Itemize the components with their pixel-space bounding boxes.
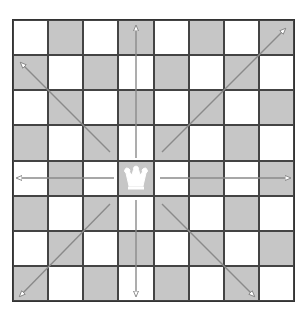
square-b6 bbox=[48, 90, 83, 125]
square-d6 bbox=[118, 90, 153, 125]
square-d8 bbox=[118, 20, 153, 55]
square-f4 bbox=[189, 161, 224, 196]
square-a5 bbox=[13, 125, 48, 160]
white-queen-icon bbox=[122, 164, 150, 192]
square-h3 bbox=[259, 196, 294, 231]
square-h4 bbox=[259, 161, 294, 196]
square-f5 bbox=[189, 125, 224, 160]
square-c3 bbox=[83, 196, 118, 231]
square-f1 bbox=[189, 266, 224, 301]
square-h8 bbox=[259, 20, 294, 55]
square-a2 bbox=[13, 231, 48, 266]
square-f2 bbox=[189, 231, 224, 266]
square-h7 bbox=[259, 55, 294, 90]
square-b3 bbox=[48, 196, 83, 231]
square-f8 bbox=[189, 20, 224, 55]
square-h5 bbox=[259, 125, 294, 160]
square-e4 bbox=[154, 161, 189, 196]
square-h2 bbox=[259, 231, 294, 266]
square-h6 bbox=[259, 90, 294, 125]
square-c4 bbox=[83, 161, 118, 196]
square-c7 bbox=[83, 55, 118, 90]
square-g2 bbox=[224, 231, 259, 266]
square-g8 bbox=[224, 20, 259, 55]
square-f6 bbox=[189, 90, 224, 125]
square-a7 bbox=[13, 55, 48, 90]
square-c5 bbox=[83, 125, 118, 160]
square-a1 bbox=[13, 266, 48, 301]
square-d2 bbox=[118, 231, 153, 266]
square-e8 bbox=[154, 20, 189, 55]
square-g6 bbox=[224, 90, 259, 125]
square-h1 bbox=[259, 266, 294, 301]
square-e7 bbox=[154, 55, 189, 90]
square-a6 bbox=[13, 90, 48, 125]
square-e1 bbox=[154, 266, 189, 301]
square-g5 bbox=[224, 125, 259, 160]
square-d3 bbox=[118, 196, 153, 231]
square-b1 bbox=[48, 266, 83, 301]
square-b8 bbox=[48, 20, 83, 55]
square-c2 bbox=[83, 231, 118, 266]
square-g4 bbox=[224, 161, 259, 196]
square-e3 bbox=[154, 196, 189, 231]
square-b7 bbox=[48, 55, 83, 90]
square-c6 bbox=[83, 90, 118, 125]
square-f3 bbox=[189, 196, 224, 231]
square-d7 bbox=[118, 55, 153, 90]
square-g3 bbox=[224, 196, 259, 231]
square-e6 bbox=[154, 90, 189, 125]
square-b5 bbox=[48, 125, 83, 160]
square-g7 bbox=[224, 55, 259, 90]
square-a8 bbox=[13, 20, 48, 55]
square-a3 bbox=[13, 196, 48, 231]
chessboard bbox=[12, 19, 295, 302]
square-a4 bbox=[13, 161, 48, 196]
square-b2 bbox=[48, 231, 83, 266]
square-d1 bbox=[118, 266, 153, 301]
square-e5 bbox=[154, 125, 189, 160]
square-c1 bbox=[83, 266, 118, 301]
square-e2 bbox=[154, 231, 189, 266]
square-d5 bbox=[118, 125, 153, 160]
square-b4 bbox=[48, 161, 83, 196]
square-f7 bbox=[189, 55, 224, 90]
square-g1 bbox=[224, 266, 259, 301]
square-c8 bbox=[83, 20, 118, 55]
